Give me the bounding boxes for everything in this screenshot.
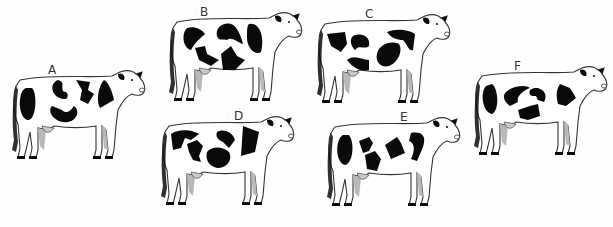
cow-a: A (8, 66, 148, 166)
cow-figure: A B (0, 0, 613, 227)
cow-c-illustration (313, 10, 453, 110)
cow-e-illustration (323, 113, 463, 213)
cow-b-illustration (165, 8, 305, 108)
cow-c: C (313, 10, 453, 110)
cow-a-illustration (8, 66, 148, 166)
cow-b: B (165, 8, 305, 108)
cow-e: E (323, 113, 463, 213)
cow-f-illustration (470, 62, 610, 162)
cow-d-illustration (157, 112, 297, 212)
cow-d: D (157, 112, 297, 212)
cow-f: F (470, 62, 610, 162)
